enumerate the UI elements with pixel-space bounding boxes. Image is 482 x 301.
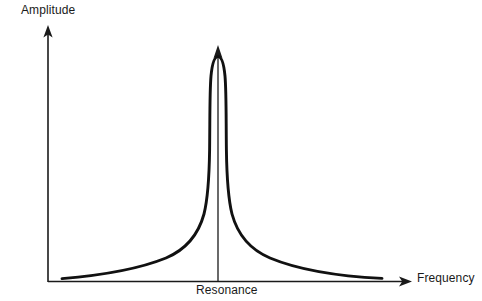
resonance-marker-label: Resonance — [196, 283, 258, 297]
y-axis — [43, 25, 52, 282]
resonance-marker-line — [214, 45, 223, 282]
x-axis-label: Frequency — [417, 271, 475, 285]
resonance-figure: Amplitude Frequency Resonance — [0, 0, 482, 301]
resonance-curve — [62, 57, 382, 279]
resonance-plot — [0, 0, 482, 301]
y-axis-label: Amplitude — [21, 3, 75, 17]
